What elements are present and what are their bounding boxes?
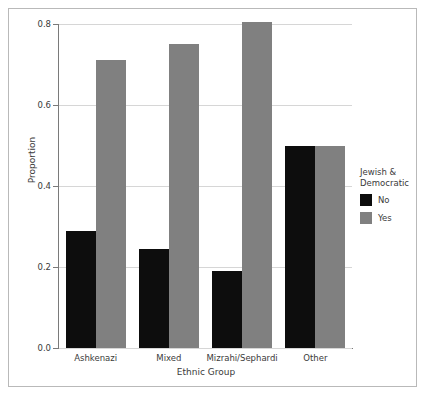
legend-item-label: Yes <box>378 213 392 223</box>
legend-item[interactable]: Yes <box>360 210 422 226</box>
gridline <box>59 348 352 349</box>
legend-item-label: No <box>378 195 390 205</box>
legend-item[interactable]: No <box>360 192 422 208</box>
y-axis-tick-label: 0.6 <box>37 101 51 110</box>
bar <box>66 231 96 348</box>
legend-color-swatch <box>360 194 372 206</box>
y-axis-tick-mark <box>53 267 59 268</box>
y-axis-tick-labels: 0.00.20.40.60.8 <box>0 0 51 404</box>
legend-color-swatch <box>360 212 372 224</box>
legend-entries: NoYes <box>360 192 422 226</box>
bar <box>315 146 345 349</box>
x-axis-title: Ethnic Group <box>59 367 353 377</box>
y-axis-tick-label: 0.8 <box>37 20 51 29</box>
y-axis-title: Proportion <box>27 120 37 200</box>
legend: Jewish & Democratic NoYes <box>360 167 422 228</box>
y-axis-tick-mark <box>53 348 59 349</box>
bar <box>285 146 315 349</box>
bar <box>139 249 169 348</box>
bar <box>242 22 272 348</box>
x-axis-tick-label: Other <box>255 353 375 363</box>
y-axis-tick-label: 0.2 <box>37 263 51 272</box>
bar <box>169 44 199 348</box>
plot-area <box>59 24 352 348</box>
bar <box>212 271 242 348</box>
y-axis-tick-label: 0.0 <box>37 344 51 353</box>
bar <box>96 60 126 348</box>
y-axis-tick-mark <box>53 186 59 187</box>
y-axis-tick-mark <box>53 24 59 25</box>
gridline <box>59 24 352 25</box>
chart-figure: 0.00.20.40.60.8 Proportion AshkenaziMixe… <box>0 0 425 404</box>
legend-title: Jewish & Democratic <box>360 167 422 188</box>
y-axis-tick-label: 0.4 <box>37 182 51 191</box>
y-axis-tick-mark <box>53 105 59 106</box>
